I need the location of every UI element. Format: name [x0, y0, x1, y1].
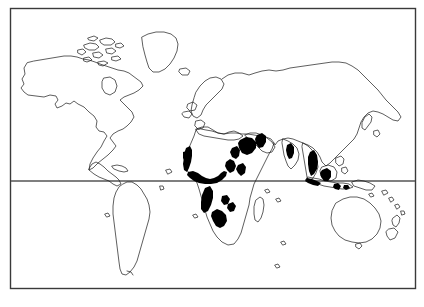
map-canvas: [0, 0, 424, 307]
map-background: [0, 0, 424, 307]
world-distribution-map: [0, 0, 424, 307]
